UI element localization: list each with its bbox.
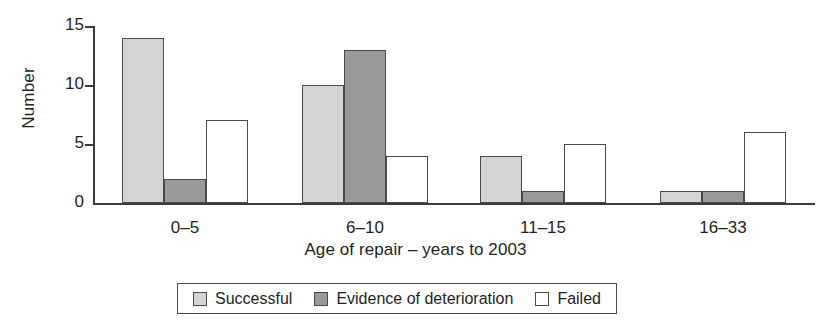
bar-successful-6–10 <box>302 85 344 203</box>
bar-chart: Number 15 10 5 0 0–56–1011–1516–33 Age o… <box>0 0 831 330</box>
x-axis-title: Age of repair – years to 2003 <box>0 240 831 260</box>
y-tick-5: 5 <box>93 144 94 146</box>
x-tick-label: 0–5 <box>102 218 268 238</box>
bar-failed-16–33 <box>744 132 786 203</box>
y-tick-label: 0 <box>50 192 84 212</box>
x-axis-line <box>93 203 815 205</box>
legend-swatch-icon <box>193 292 207 306</box>
y-tick-mark <box>85 144 94 146</box>
y-tick-0: 0 <box>93 203 94 205</box>
bar-successful-11–15 <box>480 156 522 203</box>
legend-swatch-icon <box>314 292 328 306</box>
bar-failed-6–10 <box>386 156 428 203</box>
bar-successful-0–5 <box>122 38 164 203</box>
bar-evidence-of-deterioration-6–10 <box>344 50 386 203</box>
x-tick-label: 16–33 <box>640 218 806 238</box>
bar-failed-11–15 <box>564 144 606 203</box>
bar-evidence-of-deterioration-11–15 <box>522 191 564 203</box>
y-tick-mark <box>85 26 94 28</box>
legend-item-failed: Failed <box>535 290 601 308</box>
legend-label: Evidence of deterioration <box>336 290 513 308</box>
y-tick-label: 15 <box>50 15 84 35</box>
x-tick-label: 6–10 <box>282 218 448 238</box>
legend-item-deterioration: Evidence of deterioration <box>314 290 513 308</box>
y-axis-title: Number <box>19 38 39 158</box>
plot-area: 15 10 5 0 0–56–1011–1516–33 <box>93 26 813 203</box>
y-tick-mark <box>85 85 94 87</box>
y-axis-line <box>93 26 95 204</box>
y-tick-label: 10 <box>50 74 84 94</box>
legend-item-successful: Successful <box>193 290 292 308</box>
legend-label: Failed <box>557 290 601 308</box>
legend-label: Successful <box>215 290 292 308</box>
y-tick-10: 10 <box>93 85 94 87</box>
y-tick-15: 15 <box>93 26 94 28</box>
bar-evidence-of-deterioration-0–5 <box>164 179 206 203</box>
y-tick-label: 5 <box>50 133 84 153</box>
legend-swatch-icon <box>535 292 549 306</box>
chart-legend: Successful Evidence of deterioration Fai… <box>177 283 617 314</box>
x-tick-label: 11–15 <box>460 218 626 238</box>
bar-successful-16–33 <box>660 191 702 203</box>
bar-failed-0–5 <box>206 120 248 203</box>
bar-evidence-of-deterioration-16–33 <box>702 191 744 203</box>
